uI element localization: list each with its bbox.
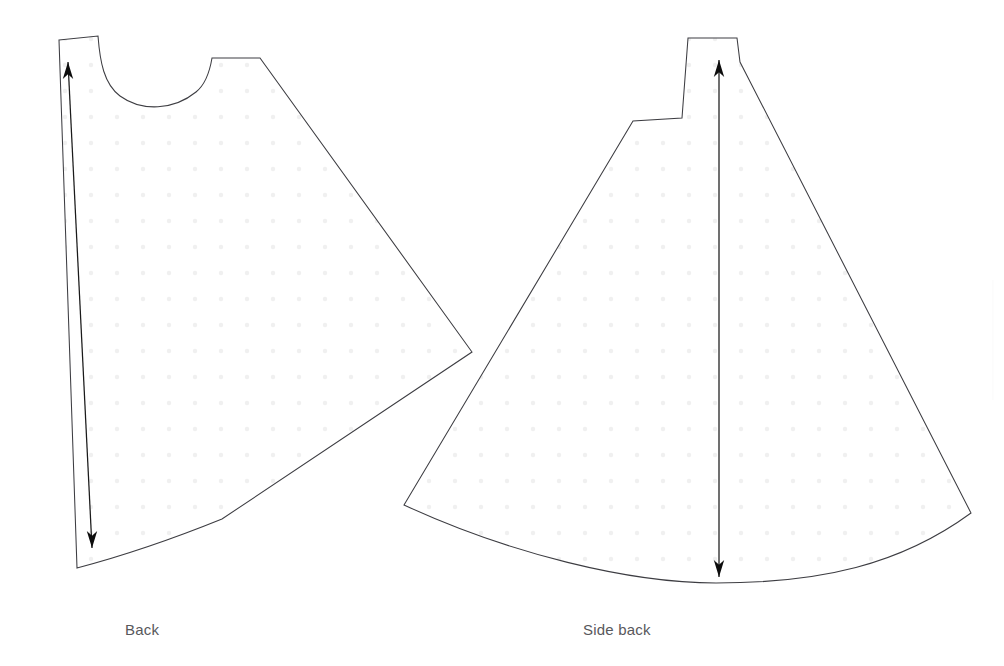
piece-label-back: Back [125, 621, 159, 638]
back-piece-outline[interactable] [59, 36, 472, 568]
piece-label-side-back: Side back [583, 621, 651, 638]
side-back-piece-outline[interactable] [404, 38, 971, 583]
pattern-piece-side-back[interactable] [404, 38, 971, 583]
pattern-canvas: Back Side back [0, 0, 1004, 666]
pattern-piece-back[interactable] [59, 36, 472, 568]
pattern-drawing [0, 0, 1004, 666]
